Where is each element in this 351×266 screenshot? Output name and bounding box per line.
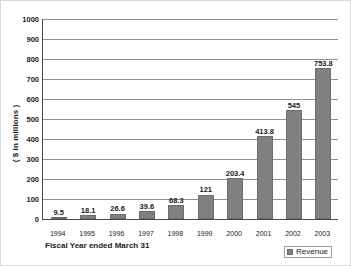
- y-axis-tick-label: 400: [26, 136, 39, 144]
- gridline: 0: [43, 219, 338, 220]
- bar-value-label: 39.6: [140, 203, 155, 211]
- legend-swatch-revenue: [287, 249, 293, 255]
- bar[interactable]: 545: [286, 110, 302, 219]
- bar[interactable]: 121: [198, 195, 214, 219]
- bar-value-label: 68.3: [169, 197, 184, 205]
- bar-value-label: 753.8: [314, 60, 333, 68]
- x-axis-tick-slot: 2002: [278, 222, 307, 240]
- x-axis-tick-label: 2002: [285, 230, 301, 237]
- bar-slot: 9.5: [44, 19, 73, 219]
- x-axis-tick-label: 1994: [50, 230, 66, 237]
- bar[interactable]: 68.3: [168, 205, 184, 219]
- y-axis-tick-label: 500: [26, 116, 39, 124]
- bar-slot: 39.6: [132, 19, 161, 219]
- x-axis-tick-label: 1997: [138, 230, 154, 237]
- bar-value-label: 26.6: [110, 205, 125, 213]
- bar-slot: 18.1: [73, 19, 102, 219]
- y-axis-tick-label: 800: [26, 56, 39, 64]
- x-axis-tick-slot: 1994: [43, 222, 72, 240]
- bar[interactable]: 26.6: [110, 214, 126, 219]
- x-axis-tick-label: 1999: [197, 230, 213, 237]
- y-axis-title: ( $ in millions ): [11, 74, 20, 194]
- x-axis-tick-slot: 1997: [131, 222, 160, 240]
- y-axis-tick-label: 300: [26, 156, 39, 164]
- x-axis-tick-slot: 2001: [249, 222, 278, 240]
- x-axis-tick-labels: 1994199519961997199819992000200120022003: [43, 222, 337, 240]
- plot-area: 10009008007006005004003002001000 9.518.1…: [42, 19, 338, 220]
- x-axis-tick-label: 1998: [168, 230, 184, 237]
- y-axis-tick-label: 0: [35, 216, 39, 224]
- y-axis-tick-label: 200: [26, 176, 39, 184]
- x-axis-tick-label: 2001: [256, 230, 272, 237]
- x-axis-tick-slot: 2000: [219, 222, 248, 240]
- x-axis-tick-slot: 1996: [102, 222, 131, 240]
- bar[interactable]: 39.6: [139, 211, 155, 219]
- revenue-bar-chart: ( $ in millions ) 1000900800700600500400…: [0, 0, 351, 266]
- bar[interactable]: 9.5: [51, 217, 67, 219]
- bar[interactable]: 753.8: [315, 68, 331, 219]
- x-axis-tick-label: 1996: [109, 230, 125, 237]
- bar-slot: 68.3: [162, 19, 191, 219]
- bar-slot: 203.4: [220, 19, 249, 219]
- x-axis-tick-slot: 1998: [161, 222, 190, 240]
- x-axis-tick-slot: 1999: [190, 222, 219, 240]
- y-axis-tick-label: 100: [26, 196, 39, 204]
- y-axis-tick-label: 900: [26, 36, 39, 44]
- bar-value-label: 121: [199, 186, 212, 194]
- chart-legend: Revenue: [284, 246, 332, 258]
- bar-slot: 26.6: [103, 19, 132, 219]
- bar-slot: 545: [279, 19, 308, 219]
- y-axis-tick-label: 1000: [22, 16, 39, 24]
- x-axis-title: Fiscal Year ended March 31: [45, 241, 149, 250]
- legend-label-revenue: Revenue: [296, 248, 328, 256]
- x-axis-tick-slot: 1995: [72, 222, 101, 240]
- bar[interactable]: 18.1: [80, 215, 96, 219]
- y-axis-tick-label: 600: [26, 96, 39, 104]
- bar-slot: 121: [191, 19, 220, 219]
- y-axis-tick-label: 700: [26, 76, 39, 84]
- bar-value-label: 413.8: [255, 128, 274, 136]
- bar-value-label: 203.4: [226, 170, 245, 178]
- bar[interactable]: 203.4: [227, 178, 243, 219]
- bar-value-label: 545: [288, 102, 301, 110]
- bar-value-label: 18.1: [81, 207, 96, 215]
- bar-slot: 753.8: [309, 19, 338, 219]
- x-axis-tick-slot: 2003: [308, 222, 337, 240]
- x-axis-tick-label: 2000: [226, 230, 242, 237]
- bar-value-label: 9.5: [53, 209, 63, 217]
- bar-slot: 413.8: [250, 19, 279, 219]
- x-axis-tick-label: 1995: [79, 230, 95, 237]
- bar-series-revenue: 9.518.126.639.668.3121203.4413.8545753.8: [44, 19, 338, 219]
- x-axis-tick-label: 2003: [315, 230, 331, 237]
- bar[interactable]: 413.8: [257, 136, 273, 219]
